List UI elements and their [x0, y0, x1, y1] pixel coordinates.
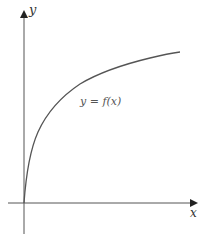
- graph-svg: [0, 0, 208, 234]
- x-axis-label: x: [190, 206, 197, 220]
- graph-figure: y x y = f(x): [0, 0, 208, 234]
- curve-label: y = f(x): [80, 95, 121, 108]
- y-axis-label: y: [29, 2, 36, 17]
- function-curve: [24, 52, 180, 203]
